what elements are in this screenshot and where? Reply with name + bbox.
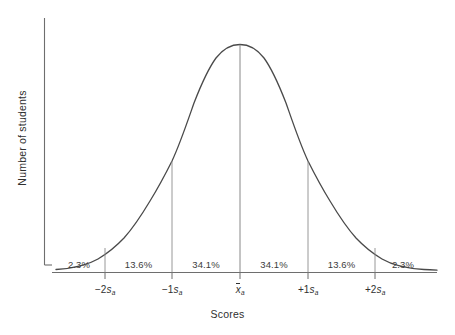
xtick-label-minus-1s-symbol: s	[173, 284, 178, 295]
xtick-label-plus-2s-symbol: s	[376, 284, 381, 295]
xtick-label-minus-1s: −1sa	[142, 284, 202, 295]
normal-distribution-chart: 2.3% 13.6% 34.1% 34.1% 13.6% 2.3% −2sa −…	[0, 0, 455, 335]
x-axis-title: Scores	[0, 308, 455, 320]
xtick-label-mean-subscript: a	[241, 289, 245, 296]
y-axis-title: Number of students	[16, 58, 28, 218]
xtick-label-mean-symbol: x	[236, 284, 241, 295]
region-label-minus-one-to-mean: 34.1%	[172, 259, 240, 270]
xtick-label-minus-2s-symbol: s	[106, 284, 111, 295]
xtick-label-minus-2s-subscript: a	[112, 289, 116, 296]
region-label-right-tail: 2.3%	[375, 259, 431, 270]
region-label-left-tail: 2.3%	[53, 259, 105, 270]
xtick-label-plus-1s-symbol: s	[309, 284, 314, 295]
xtick-label-plus-2s-subscript: a	[382, 289, 386, 296]
xtick-label-mean: xa	[210, 284, 270, 295]
region-label-minus-two-to-minus-one: 13.6%	[105, 259, 172, 270]
xtick-label-plus-1s-subscript: a	[315, 289, 319, 296]
xtick-label-plus-2s: +2sa	[345, 284, 405, 295]
xtick-label-plus-1s: +1sa	[278, 284, 338, 295]
xtick-label-minus-1s-subscript: a	[179, 289, 183, 296]
bell-curve-path	[56, 45, 437, 271]
xtick-label-minus-2s: −2sa	[75, 284, 135, 295]
region-label-mean-to-plus-one: 34.1%	[240, 259, 308, 270]
region-label-plus-one-to-plus-two: 13.6%	[308, 259, 375, 270]
